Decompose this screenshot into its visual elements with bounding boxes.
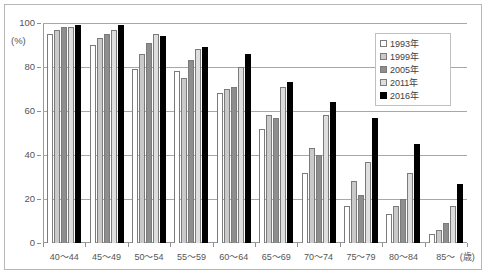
bar [344,206,350,243]
bar [174,71,180,243]
bar [181,78,187,243]
y-axis-tick [37,23,41,24]
bar [188,60,194,243]
x-axis-tick [467,243,468,247]
bar [302,173,308,243]
legend-swatch-icon [380,79,387,86]
bar [195,49,201,243]
bar [450,206,456,243]
bar [287,82,293,243]
y-axis-tick [37,243,41,244]
legend-item-label: 2016年 [390,89,419,102]
legend-swatch-icon [380,53,387,60]
bar [386,214,392,243]
bar [309,148,315,243]
y-axis-tick-label: 20 [5,194,35,203]
legend-item[interactable]: 1993年 [380,37,446,50]
bar [139,54,145,243]
legend-item-label: 1999年 [390,50,419,63]
bar [238,67,244,243]
bar [323,115,329,243]
bar [47,34,53,243]
bar [436,230,442,243]
chart-legend: 1993年1999年2005年2011年2016年 [375,33,451,106]
x-axis-tick [382,243,383,247]
legend-swatch-icon [380,66,387,73]
bar [111,30,117,243]
x-axis-tick-label: 65〜69 [262,250,291,263]
legend-swatch-icon [380,92,387,99]
bar [245,54,251,243]
x-axis-tick [43,243,44,247]
y-axis-tick [37,111,41,112]
bar [97,38,103,243]
bar [75,25,81,243]
bar [146,43,152,243]
x-axis-tick-label: 70〜74 [304,250,333,263]
bar [54,30,60,243]
bar [358,195,364,243]
bar [202,47,208,243]
x-axis-tick-label: 75〜79 [346,250,375,263]
x-axis-tick-label: 60〜64 [219,250,248,263]
y-axis-tick-label: 60 [5,106,35,115]
bar [68,27,74,243]
bar-group [255,23,297,243]
x-axis-tick-label: 80〜84 [389,250,418,263]
bar [351,181,357,243]
bar [231,87,237,243]
chart-frame: (%) 020406080100 40〜4445〜4950〜5455〜5960〜… [4,4,482,270]
legend-item[interactable]: 2016年 [380,89,446,102]
bar [61,27,67,243]
legend-item[interactable]: 1999年 [380,50,446,63]
legend-item-label: 2011年 [390,76,418,89]
x-axis-tick [128,243,129,247]
x-axis: 40〜4445〜4950〜5455〜5960〜6465〜6970〜7475〜79… [43,243,467,269]
y-axis-tick-label: 0 [5,238,35,247]
bar [160,36,166,243]
y-axis-tick-label: 80 [5,62,35,71]
bar [104,34,110,243]
bar [132,69,138,243]
legend-item[interactable]: 2005年 [380,63,446,76]
bar [400,199,406,243]
legend-item[interactable]: 2011年 [380,76,446,89]
x-axis-tick-label: 40〜44 [50,250,79,263]
bar [224,89,230,243]
bar [429,234,435,243]
bar [259,129,265,243]
bar [407,173,413,243]
bar [266,115,272,243]
x-axis-tick [170,243,171,247]
x-axis-tick [425,243,426,247]
y-axis-tick-label: 100 [5,18,35,27]
x-axis-tick-label: 55〜59 [177,250,206,263]
bar-group [128,23,170,243]
y-axis-tick [37,67,41,68]
y-axis-tick [37,199,41,200]
x-axis-tick-label: 85〜 [436,250,455,263]
x-axis-unit-label: (歳) [460,250,475,263]
bar-group [213,23,255,243]
x-axis-tick [85,243,86,247]
bar [118,25,124,243]
x-axis-tick-label: 50〜54 [134,250,163,263]
legend-item-label: 1993年 [390,37,419,50]
bar [457,184,463,243]
bar [414,144,420,243]
bar-group [43,23,85,243]
bar [316,155,322,243]
bar [217,93,223,243]
bar [153,34,159,243]
y-axis: 020406080100 [5,23,41,244]
bar [365,162,371,243]
bar-group [297,23,339,243]
bar [330,102,336,243]
bar [273,118,279,243]
bar-group [170,23,212,243]
bar [90,45,96,243]
legend-item-label: 2005年 [390,63,419,76]
bar-group [85,23,127,243]
bar [372,118,378,243]
x-axis-tick [255,243,256,247]
